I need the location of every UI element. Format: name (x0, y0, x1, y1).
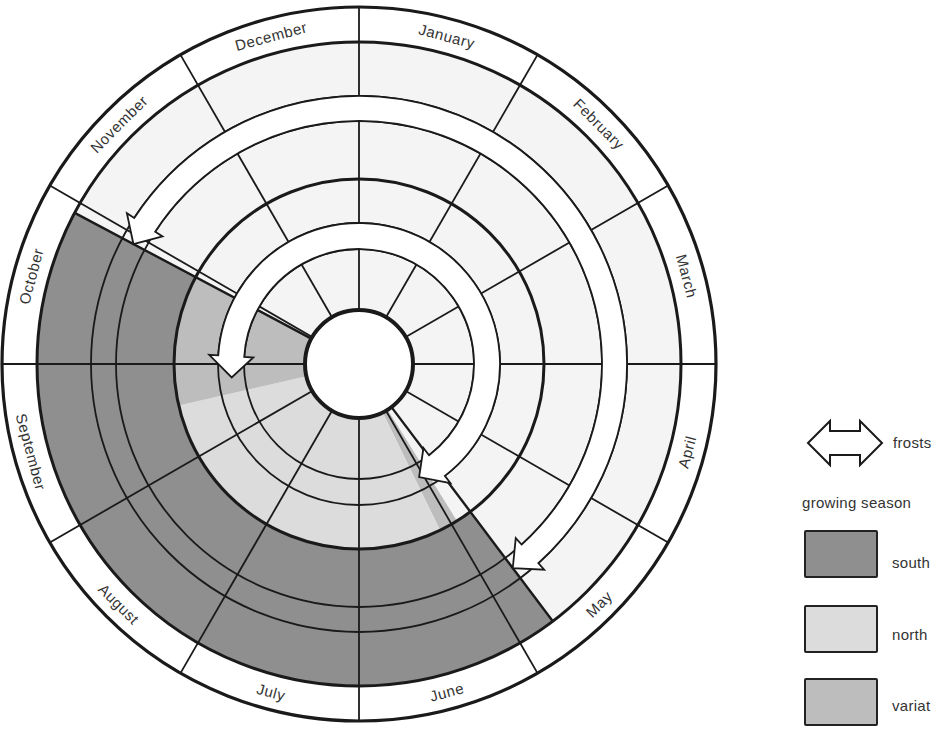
legend-swatch-variable (804, 678, 878, 726)
legend-growing-season-title: growing season (802, 494, 911, 511)
month-label-july: July (255, 680, 287, 704)
center-circle (305, 310, 413, 418)
legend-south-label: south (892, 554, 930, 571)
month-label-april: April (674, 434, 699, 470)
legend-swatch-south (804, 530, 878, 578)
frosts-double-arrow-icon (806, 417, 884, 469)
month-label-june: June (428, 679, 466, 704)
legend-frosts-label: frosts (893, 434, 931, 451)
month-label-march: March (673, 252, 701, 300)
legend-variable-label: variat (892, 697, 930, 714)
legend-north-label: north (892, 626, 928, 643)
growing-season-wheel: JanuaryFebruaryMarchAprilMayJuneJulyAugu… (0, 0, 720, 739)
legend-swatch-north (804, 605, 878, 653)
